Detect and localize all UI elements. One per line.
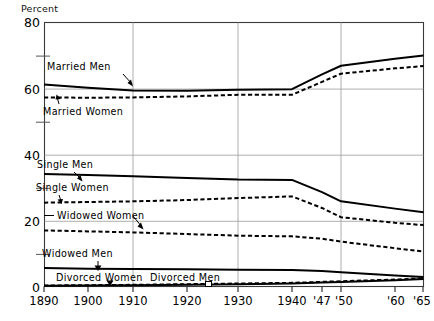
marker-divorced-men xyxy=(206,282,212,287)
series-label-widowed-men: Widowed Men xyxy=(42,248,113,259)
series-label-married-women: Married Women xyxy=(43,106,123,117)
series-label-single-women: Single Women xyxy=(36,182,109,193)
x-axis-ticks xyxy=(44,287,423,293)
x-tick-1920: 1920 xyxy=(172,294,201,308)
arrowhead-widowed-women xyxy=(138,223,144,230)
y-tick-80: 80 xyxy=(24,15,40,30)
x-tick-1950: '50 xyxy=(335,294,353,308)
x-gridlines xyxy=(133,23,341,287)
series-label-widowed-women: Widowed Women xyxy=(57,210,144,221)
chart-container: Percent 80 60 40 20 0 xyxy=(0,0,434,321)
x-tick-1910: 1910 xyxy=(118,294,147,308)
x-tick-1940: 1940 xyxy=(277,294,306,308)
x-tick-1900: 1900 xyxy=(73,294,102,308)
x-tick-1965: '65 xyxy=(413,294,431,308)
series-label-single-men: Single Men xyxy=(37,159,93,170)
y-axis-title: Percent xyxy=(21,3,58,14)
x-tick-1960: '60 xyxy=(387,294,405,308)
series-label-divorced-women: Divorced Women xyxy=(56,272,143,283)
line-chart-svg: Percent 80 60 40 20 0 xyxy=(0,0,434,321)
y-tick-20: 20 xyxy=(24,214,40,229)
y-axis-ticks: 80 60 40 20 0 xyxy=(24,15,40,295)
y-tick-0: 0 xyxy=(32,280,40,295)
x-tick-1930: 1930 xyxy=(223,294,252,308)
series-line-single-men xyxy=(44,174,424,212)
x-tick-1947: '47 xyxy=(313,294,331,308)
x-axis-tick-labels: 1890 1900 1910 1920 1930 1940 '47 '50 '6… xyxy=(29,294,431,308)
series-label-married-men: Married Men xyxy=(47,61,111,72)
y-tick-60: 60 xyxy=(24,82,40,97)
x-tick-1890: 1890 xyxy=(29,294,58,308)
